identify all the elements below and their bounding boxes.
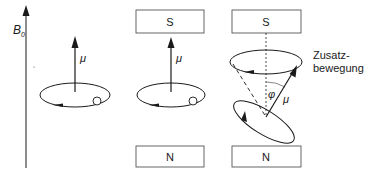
panel-precession: S N φ μ Zusatz- bewegung <box>228 10 364 167</box>
moment-arrow-icon <box>72 36 79 48</box>
orbit-arrow-icon <box>53 104 63 108</box>
moment-label: μ <box>79 52 86 64</box>
pole-n-label: N <box>166 151 174 163</box>
axis-label: B0 <box>13 23 25 38</box>
pole-n-label: N <box>262 151 270 163</box>
panel-magnet: S N μ <box>136 10 205 167</box>
moment-arrow-icon <box>168 37 175 48</box>
spin-particle <box>189 97 197 105</box>
pole-s-label: S <box>166 16 173 28</box>
axis-arrow-icon <box>23 5 30 16</box>
annotation-line2: bewegung <box>313 62 364 74</box>
angle-label: φ <box>268 88 275 100</box>
annotation-line1: Zusatz- <box>313 49 350 61</box>
precession-arrow-icon <box>244 70 254 74</box>
panel-free: μ <box>40 36 110 107</box>
moment-label: μ <box>175 52 182 64</box>
diagram-canvas: B0 μ S N μ S N φ <box>0 0 377 174</box>
b0-axis: B0 <box>13 5 35 168</box>
spin-particle <box>93 97 101 105</box>
angle-arc <box>266 82 285 87</box>
moment-label: μ <box>282 93 289 105</box>
orbit-arrow-icon <box>149 104 159 108</box>
additional-motion-ellipse <box>228 93 300 150</box>
pole-s-label: S <box>262 16 269 28</box>
